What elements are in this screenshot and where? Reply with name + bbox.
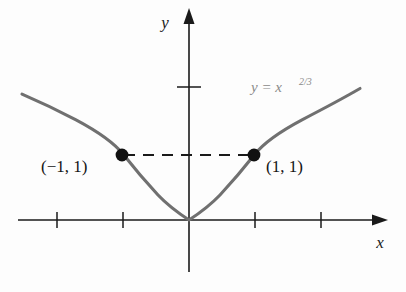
figure-container: y x (−1, 1) (1, 1) y = x 2/3 bbox=[0, 0, 406, 292]
equation-annotation: y = x 2/3 bbox=[249, 76, 312, 95]
function-plot: y x (−1, 1) (1, 1) y = x 2/3 bbox=[0, 0, 406, 292]
left-point-label: (−1, 1) bbox=[41, 157, 87, 176]
y-axis-label: y bbox=[159, 13, 169, 32]
y-axis-arrowhead bbox=[184, 8, 195, 24]
point-marker-left bbox=[116, 149, 129, 162]
x-axis-arrowhead bbox=[372, 215, 388, 226]
right-point-label: (1, 1) bbox=[266, 157, 303, 176]
x-axis-label: x bbox=[375, 233, 384, 252]
equation-base-text: y = x bbox=[249, 79, 282, 95]
equation-exponent-text: 2/3 bbox=[299, 76, 312, 87]
point-marker-right bbox=[248, 149, 261, 162]
